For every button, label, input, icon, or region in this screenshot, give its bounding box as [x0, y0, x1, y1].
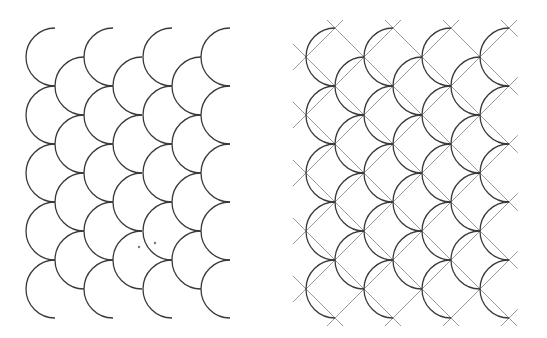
scale-arc: [201, 86, 230, 144]
scale-arc: [143, 202, 172, 260]
scale-arc: [143, 86, 172, 144]
scale-arc: [55, 57, 84, 115]
scale-arc: [26, 144, 55, 202]
stray-dot: [138, 246, 140, 248]
scale-arc: [480, 202, 509, 260]
scale-arc: [393, 231, 422, 289]
scale-arc: [306, 260, 335, 318]
diamond-guide-line: [293, 20, 517, 244]
scale-arc: [201, 28, 230, 86]
scale-arc: [422, 260, 451, 318]
scale-arc: [172, 173, 201, 231]
scale-arc: [201, 260, 230, 318]
scale-arc: [113, 231, 142, 289]
scale-arc: [364, 144, 393, 202]
scale-arc: [393, 173, 422, 231]
scale-arc: [364, 86, 393, 144]
scale-arc: [143, 144, 172, 202]
scale-arc: [113, 57, 142, 115]
scale-arc: [422, 28, 451, 86]
scale-arc: [451, 115, 480, 173]
scale-arc: [480, 28, 509, 86]
diamond-guide-line: [293, 44, 518, 269]
diamond-guide-line: [293, 20, 401, 128]
scale-arc: [84, 202, 113, 260]
scale-arc: [306, 202, 335, 260]
diamond-guide-line: [293, 77, 518, 302]
pattern-drawing: [0, 0, 547, 338]
fish-scale-pattern-figure: [0, 0, 547, 338]
scale-arc: [451, 173, 480, 231]
scale-arc: [393, 115, 422, 173]
scale-arc: [480, 260, 509, 318]
scale-arc: [480, 86, 509, 144]
scale-arc: [55, 231, 84, 289]
diamond-guide-line: [293, 102, 517, 326]
stray-dot: [154, 242, 156, 244]
scale-arc: [55, 173, 84, 231]
diamond-guide-line: [293, 20, 343, 70]
scale-arc: [335, 173, 364, 231]
scale-arc: [55, 115, 84, 173]
scale-arc: [422, 144, 451, 202]
scale-arc: [172, 115, 201, 173]
scale-arc: [422, 86, 451, 144]
scale-arc: [113, 173, 142, 231]
right-panel-scales-with-diamond-guides: [293, 20, 518, 326]
scale-arc: [26, 86, 55, 144]
scale-arc: [480, 144, 509, 202]
scale-arc: [306, 28, 335, 86]
scale-arc: [84, 144, 113, 202]
scale-arc: [335, 115, 364, 173]
diamond-guide-line: [293, 276, 343, 326]
scale-arc: [143, 28, 172, 86]
scale-arc: [335, 57, 364, 115]
scale-arc: [26, 260, 55, 318]
scale-arc: [364, 28, 393, 86]
scale-arc: [26, 202, 55, 260]
scale-arc: [451, 57, 480, 115]
scale-arc: [364, 260, 393, 318]
scale-arc: [306, 86, 335, 144]
scale-arc: [306, 144, 335, 202]
scale-arc: [84, 28, 113, 86]
scale-arc: [201, 202, 230, 260]
scale-arc: [364, 202, 393, 260]
scale-arc: [143, 260, 172, 318]
scale-arc: [113, 115, 142, 173]
scale-arc: [84, 260, 113, 318]
scale-arc: [201, 144, 230, 202]
scale-arc: [84, 86, 113, 144]
scale-arc: [26, 28, 55, 86]
scale-arc: [451, 231, 480, 289]
diamond-guide-line: [293, 218, 401, 326]
scale-arc: [422, 202, 451, 260]
scale-arc: [393, 57, 422, 115]
scale-arc: [172, 57, 201, 115]
scale-arc: [172, 231, 201, 289]
left-panel-plain-scales: [26, 28, 230, 318]
scale-arc: [335, 231, 364, 289]
